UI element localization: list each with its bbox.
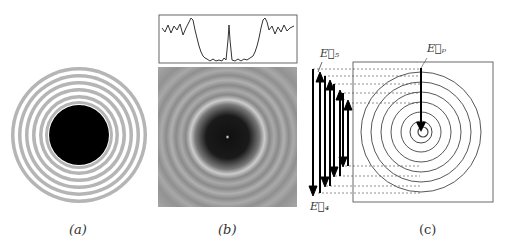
figure-canvas: [0, 0, 507, 251]
e4-label: E⃗₄: [310, 200, 329, 213]
ep-label: E⃗ₚ: [427, 42, 446, 55]
panel-b-caption: (b): [218, 222, 236, 237]
panel-b-profile-plot: [159, 15, 297, 63]
panel-a-rings: [11, 67, 147, 203]
e5-label: E⃗₅: [320, 47, 339, 60]
panel-b-interference-image: [158, 67, 297, 207]
panel-c-vertical-arrows: [309, 62, 352, 196]
panel-a-caption: (a): [69, 222, 87, 237]
panel-c-caption: (c): [419, 222, 436, 237]
